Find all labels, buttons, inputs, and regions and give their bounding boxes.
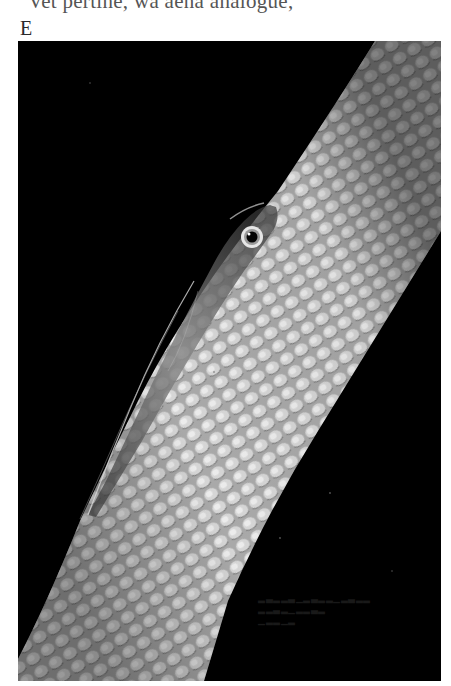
bleed-through-text: ▂▃▂▂▃▁▂▃▂▂▁▂▃▂▂▂▂▃▂▁▂▂▃▂▁▂▂▁▂ [258,593,438,626]
figure-label: E [20,17,32,40]
clipped-text-line: Vet pertine, wa aena anaiogue, [28,0,448,14]
photo-goby-on-coral: ▂▃▂▂▃▁▂▃▂▂▁▂▃▂▂▂▂▃▂▁▂▂▃▂▁▂▂▁▂ [18,41,441,681]
coral-stalk [18,41,441,681]
photo-illustration [18,41,441,681]
eye-icon [241,226,263,248]
